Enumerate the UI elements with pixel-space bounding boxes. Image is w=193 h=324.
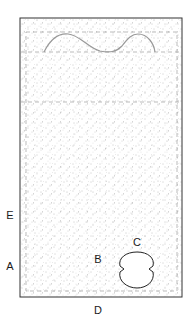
label-c: C [133,236,141,248]
label-a: A [6,260,13,272]
notched-circle-shape [120,252,154,288]
diagram-canvas [0,0,193,324]
label-b: B [94,253,101,265]
label-e: E [6,209,13,221]
label-d: D [94,304,102,316]
